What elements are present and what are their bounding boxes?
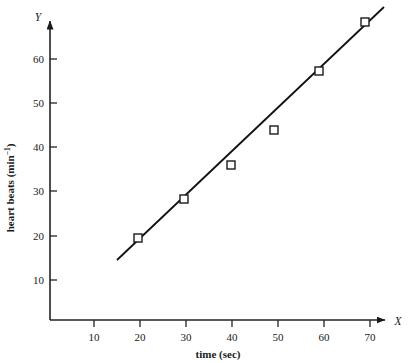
y-axis-title-exponent: −1: [3, 147, 12, 155]
x-tick-label-30: 30: [181, 331, 193, 343]
svg-text:heart beats (min−1): heart beats (min−1): [3, 143, 17, 232]
x-tick-label-70: 70: [365, 331, 377, 343]
data-point-marker: [361, 18, 369, 26]
y-axis-title-main: heart beats (min: [4, 155, 17, 232]
data-point-marker: [180, 195, 188, 203]
y-tick-label-50: 50: [33, 97, 45, 109]
x-tick-label-40: 40: [227, 331, 239, 343]
y-axis-symbol-label: Y: [35, 11, 43, 23]
y-axis-title-close: ): [4, 143, 17, 147]
x-axis-symbol-label: X: [393, 315, 402, 327]
x-tick-label-60: 60: [319, 331, 331, 343]
y-tick-label-20: 20: [33, 230, 45, 242]
data-point-marker: [134, 234, 142, 242]
x-tick-label-20: 20: [135, 331, 147, 343]
y-tick-label-10: 10: [33, 274, 45, 286]
x-tick-label-50: 50: [273, 331, 285, 343]
regression-line: [117, 7, 384, 260]
y-tick-label-40: 40: [33, 141, 45, 153]
x-tick-label-10: 10: [89, 331, 101, 343]
data-point-marker: [315, 67, 323, 75]
figure-container: 10 20 30 40 50 60 10 20 30 40 50 60 70 Y…: [0, 0, 411, 363]
data-point-marker: [270, 126, 278, 134]
x-axis-title: time (sec): [196, 348, 241, 361]
data-point-marker: [227, 161, 235, 169]
y-axis-title: heart beats (min−1): [3, 143, 17, 232]
y-tick-label-60: 60: [33, 53, 45, 65]
y-tick-label-30: 30: [33, 185, 45, 197]
scatter-plot: 10 20 30 40 50 60 10 20 30 40 50 60 70 Y…: [0, 0, 411, 363]
